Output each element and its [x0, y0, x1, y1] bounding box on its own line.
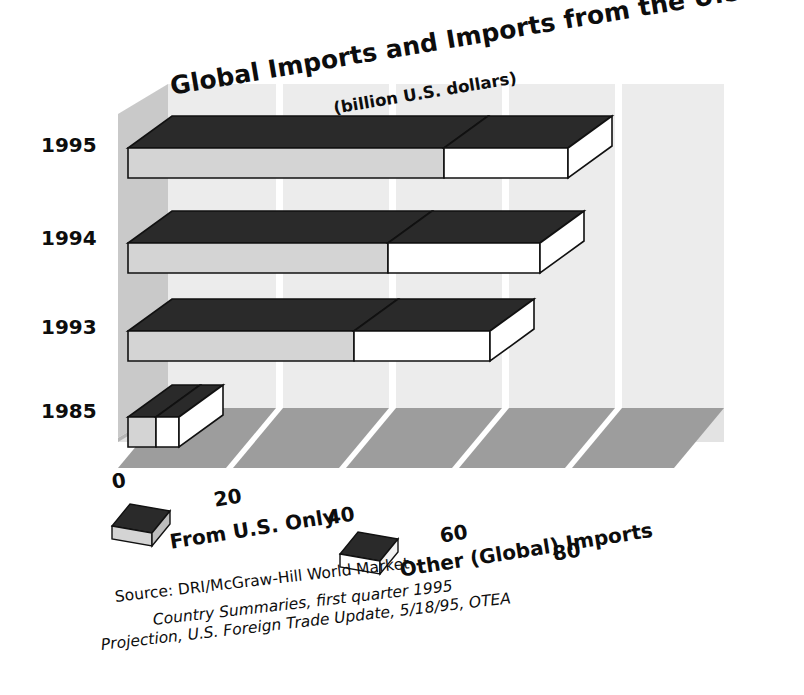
ytick-label-1995: 1995: [41, 133, 97, 157]
xtick-label-20: 20: [212, 484, 243, 512]
xtick-label-60: 60: [438, 520, 469, 548]
chart-canvas: Global Imports and Imports from the U.S.…: [0, 0, 804, 695]
bar-1985-us-front: [128, 417, 156, 447]
ytick-label-1994: 1994: [41, 226, 97, 250]
ytick-label-1985: 1985: [41, 399, 97, 423]
bar-1985-other-front: [156, 417, 179, 447]
legend-swatch-from-us: [108, 500, 178, 548]
ytick-label-1993: 1993: [41, 315, 97, 339]
